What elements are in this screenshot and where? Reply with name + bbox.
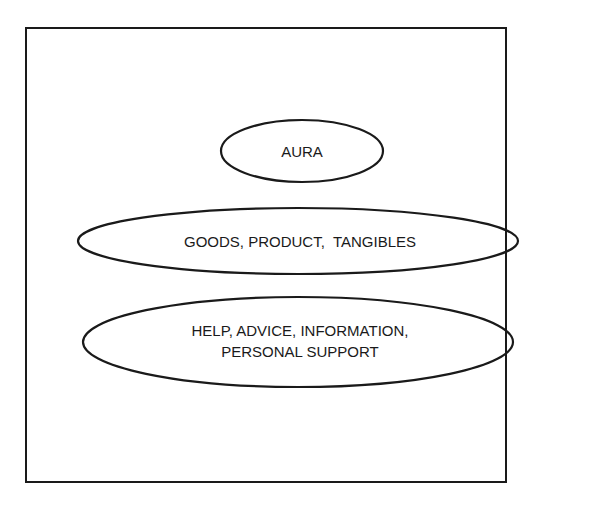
ellipse-help-label-line1: HELP, ADVICE, INFORMATION, bbox=[192, 322, 409, 339]
ellipse-aura-label: AURA bbox=[281, 143, 323, 160]
ellipse-goods-label: GOODS, PRODUCT, TANGIBLES bbox=[184, 233, 416, 250]
ellipse-goods: GOODS, PRODUCT, TANGIBLES bbox=[78, 208, 518, 274]
ellipse-help-label-line2: PERSONAL SUPPORT bbox=[221, 343, 379, 360]
ellipse-help: HELP, ADVICE, INFORMATION, PERSONAL SUPP… bbox=[83, 297, 513, 387]
ellipse-aura: AURA bbox=[221, 120, 383, 182]
diagram-canvas: AURA GOODS, PRODUCT, TANGIBLES HELP, ADV… bbox=[0, 0, 612, 509]
